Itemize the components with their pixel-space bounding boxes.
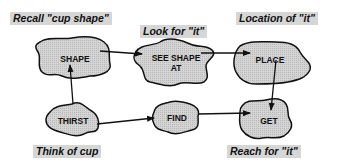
- node-label-see-shape: SEE SHAPE AT: [152, 53, 201, 73]
- node-label-see-shape-line1: SEE SHAPE: [152, 53, 201, 63]
- node-label-shape: SHAPE: [60, 54, 89, 64]
- caption-think-of-cup: Think of cup: [33, 145, 101, 158]
- caption-location-of-it: Location of "it": [236, 12, 318, 25]
- node-label-get: GET: [260, 116, 277, 126]
- edge-thirst-to-find: [97, 118, 154, 124]
- node-label-thirst: THIRST: [58, 116, 89, 126]
- node-label-place: PLACE: [256, 55, 285, 65]
- caption-reach-for-it: Reach for "it": [227, 145, 301, 158]
- caption-recall-cup-shape: Recall "cup shape": [10, 12, 112, 25]
- node-label-find: FIND: [167, 113, 187, 123]
- caption-look-for-it: Look for "it": [140, 25, 207, 38]
- node-label-see-shape-line2: AT: [152, 63, 201, 73]
